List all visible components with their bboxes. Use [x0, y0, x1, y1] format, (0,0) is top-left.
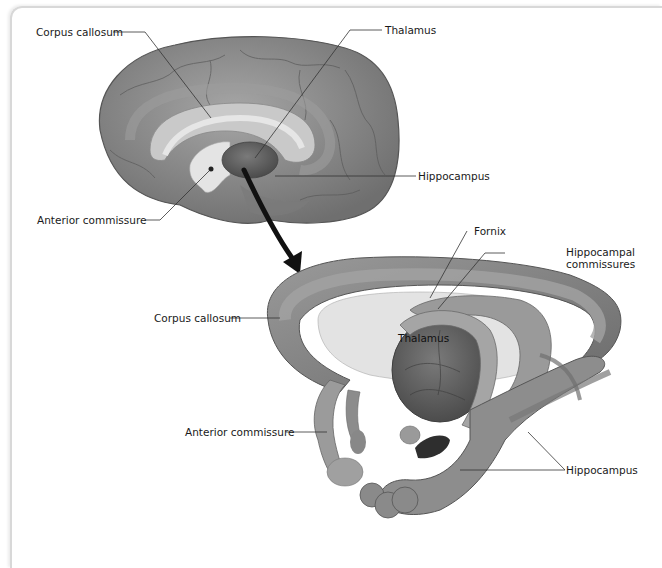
bottom-structure — [267, 257, 621, 518]
label-corpus-callosum-top: Corpus callosum — [36, 26, 123, 38]
top-brain — [99, 37, 399, 224]
label-hippocampal-commissures-line1: Hippocampal — [566, 246, 635, 258]
label-anterior-commissure-top: Anterior commissure — [37, 214, 146, 226]
label-thalamus-bottom: Thalamus — [398, 332, 449, 344]
label-hippocampus-bottom: Hippocampus — [566, 464, 638, 476]
label-hippocampal-commissures-line2: commissures — [566, 258, 635, 270]
label-thalamus-top: Thalamus — [385, 24, 436, 36]
label-corpus-callosum-bottom: Corpus callosum — [154, 312, 241, 324]
label-fornix: Fornix — [474, 225, 506, 237]
label-hippocampus-top: Hippocampus — [418, 170, 490, 182]
label-anterior-commissure-bottom: Anterior commissure — [185, 426, 294, 438]
